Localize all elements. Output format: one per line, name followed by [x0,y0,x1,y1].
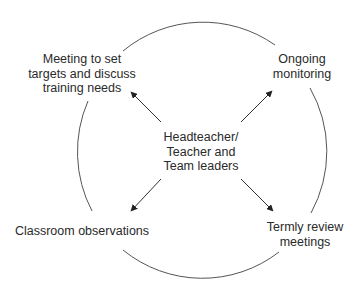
cycle-arc-left [77,101,92,211]
node-meeting-line-1: Meeting to set [22,52,142,67]
node-meeting-line-3: training needs [22,81,142,96]
node-ongoing-line-2: monitoring [262,67,342,82]
node-classroom-line-1: Classroom observations [12,224,152,239]
cycle-arc-right [310,88,327,213]
node-termly-line-2: meetings [260,235,350,250]
node-ongoing-line-1: Ongoing [262,52,342,67]
center-node: Headteacher/ Teacher and Team leaders [151,130,251,174]
center-line-2: Teacher and [151,145,251,160]
arrow-to-ongoing [241,91,272,122]
node-termly-line-1: Termly review [260,220,350,235]
node-termly: Termly review meetings [260,220,350,249]
node-classroom: Classroom observations [12,224,152,239]
cycle-arc-top [123,22,275,51]
cycle-arc-bottom [123,250,279,278]
arrow-to-termly [241,179,273,211]
node-meeting-line-2: targets and discuss [22,67,142,82]
node-ongoing: Ongoing monitoring [262,52,342,81]
arrow-to-meeting [131,92,161,122]
center-line-3: Team leaders [151,159,251,174]
center-line-1: Headteacher/ [151,130,251,145]
arrow-to-classroom [131,179,161,211]
node-meeting: Meeting to set targets and discuss train… [22,52,142,96]
